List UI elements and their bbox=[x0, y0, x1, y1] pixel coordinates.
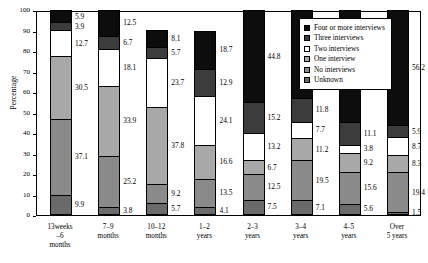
bar-segment[interactable]: 37.1 bbox=[50, 119, 72, 195]
bar-segment[interactable]: 13.5 bbox=[194, 179, 216, 207]
y-axis-tick-label: 40 bbox=[6, 130, 30, 137]
bar-1[interactable]: 9.937.130.512.73.95.9 bbox=[50, 10, 72, 215]
bar-segment-value: 5.9 bbox=[412, 128, 421, 136]
y-axis-tick-label: 30 bbox=[6, 151, 30, 158]
y-axis-tick-label: 90 bbox=[6, 28, 30, 35]
x-axis-tick-label: 13weeks–6months bbox=[33, 223, 87, 250]
bar-segment[interactable]: 5.9 bbox=[387, 125, 409, 137]
bar-segment[interactable]: 3.9 bbox=[50, 22, 72, 30]
bar-segment[interactable]: 16.6 bbox=[194, 145, 216, 179]
bar-segment-value: 11.8 bbox=[316, 106, 329, 114]
legend-item-label: Four or more interviews bbox=[314, 24, 385, 32]
bar-segment-value: 7.1 bbox=[316, 204, 325, 212]
bar-segment-value: 3.8 bbox=[123, 207, 132, 215]
x-axis-label-line: years bbox=[322, 232, 376, 241]
bar-segment[interactable]: 12.5 bbox=[243, 174, 265, 200]
bar-segment[interactable]: 12.9 bbox=[194, 69, 216, 95]
bar-segment[interactable]: 6.7 bbox=[243, 160, 265, 174]
bar-segment[interactable]: 11.1 bbox=[339, 122, 361, 145]
x-axis-tick-label: 3–4years bbox=[274, 223, 328, 241]
bar-segment[interactable]: 19.4 bbox=[387, 172, 409, 212]
x-axis-label-line: 5 years bbox=[370, 232, 424, 241]
y-axis-tick-label: 80 bbox=[6, 48, 30, 55]
bar-segment[interactable]: 30.5 bbox=[50, 56, 72, 119]
bar-segment-value: 37.1 bbox=[75, 153, 88, 161]
legend-item-0[interactable]: Four or more interviews bbox=[304, 23, 385, 33]
x-axis-label-line: 3–4 bbox=[274, 223, 328, 232]
bar-segment-value: 37.8 bbox=[171, 142, 184, 150]
legend-item-label: Unknown bbox=[314, 76, 343, 84]
bar-segment[interactable]: 5.7 bbox=[146, 203, 168, 215]
bar-segment[interactable]: 23.7 bbox=[146, 58, 168, 107]
bar-segment[interactable]: 9.9 bbox=[50, 195, 72, 215]
bar-segment[interactable]: 37.8 bbox=[146, 107, 168, 184]
bar-segment[interactable]: 3.8 bbox=[339, 145, 361, 153]
x-axis-label-line: Over bbox=[370, 223, 424, 232]
bar-segment-value: 1.5 bbox=[412, 209, 421, 217]
bar-segment[interactable]: 13.2 bbox=[243, 133, 265, 160]
bar-segment[interactable]: 1.5 bbox=[387, 212, 409, 215]
bar-segment[interactable]: 24.1 bbox=[194, 96, 216, 145]
bar-segment[interactable]: 18.7 bbox=[194, 31, 216, 69]
bar-segment[interactable]: 11.8 bbox=[291, 98, 313, 122]
y-axis-tick-label: 100 bbox=[6, 7, 30, 14]
bar-segment[interactable]: 4.1 bbox=[194, 207, 216, 215]
legend-item-2[interactable]: Two interviews bbox=[304, 44, 385, 54]
bar-segment-value: 33.9 bbox=[123, 117, 136, 125]
bar-segment[interactable]: 6.7 bbox=[98, 36, 120, 50]
bar-segment[interactable]: 12.7 bbox=[50, 30, 72, 56]
bar-segment[interactable]: 8.3 bbox=[387, 155, 409, 172]
x-axis-label-line: 10–12 bbox=[129, 223, 183, 232]
bar-segment-value: 30.5 bbox=[75, 84, 88, 92]
bar-segment[interactable]: 44.8 bbox=[243, 10, 265, 102]
bar-segment[interactable]: 18.1 bbox=[98, 49, 120, 86]
bar-3[interactable]: 5.79.237.823.75.78.1 bbox=[146, 10, 168, 215]
bar-segment[interactable]: 5.9 bbox=[50, 10, 72, 22]
x-axis-label-line: 2–3 bbox=[226, 223, 280, 232]
bar-segment-value: 6.7 bbox=[123, 39, 132, 47]
legend-item-label: Three interviews bbox=[314, 34, 363, 42]
y-axis-tick-label: 20 bbox=[6, 171, 30, 178]
bar-segment-value: 9.9 bbox=[75, 201, 84, 209]
y-axis-tick-label: 10 bbox=[6, 192, 30, 199]
bar-segment[interactable]: 15.2 bbox=[243, 102, 265, 133]
bar-segment-value: 18.7 bbox=[219, 46, 232, 54]
bar-segment[interactable]: 9.2 bbox=[339, 153, 361, 172]
y-axis-tick-label: 60 bbox=[6, 89, 30, 96]
legend-item-1[interactable]: Three interviews bbox=[304, 33, 385, 43]
bar-segment[interactable]: 15.6 bbox=[339, 172, 361, 204]
x-axis-tick-label: 4–5years bbox=[322, 223, 376, 241]
bar-segment-value: 23.7 bbox=[171, 79, 184, 87]
bar-segment[interactable]: 3.8 bbox=[98, 207, 120, 215]
bar-5[interactable]: 7.512.56.713.215.244.8 bbox=[243, 10, 265, 215]
bar-segment[interactable]: 12.5 bbox=[98, 10, 120, 36]
bar-segment[interactable]: 8.7 bbox=[387, 137, 409, 155]
bar-segment[interactable]: 33.9 bbox=[98, 86, 120, 155]
bar-segment-value: 5.9 bbox=[75, 13, 84, 21]
legend-item-3[interactable]: One interview bbox=[304, 54, 385, 64]
legend-swatch-icon bbox=[304, 46, 310, 52]
bar-segment-value: 19.5 bbox=[316, 177, 329, 185]
x-axis-tick-label: 7–9months bbox=[81, 223, 135, 241]
x-axis-tick-label: 1–2years bbox=[177, 223, 231, 241]
bar-segment[interactable]: 11.2 bbox=[291, 138, 313, 161]
bar-segment[interactable]: 25.2 bbox=[98, 156, 120, 208]
bar-segment[interactable]: 5.7 bbox=[146, 47, 168, 59]
bar-4[interactable]: 4.113.516.624.112.918.7 bbox=[194, 10, 216, 215]
bar-segment-value: 7.7 bbox=[316, 126, 325, 134]
bar-segment[interactable]: 7.7 bbox=[291, 122, 313, 138]
bar-2[interactable]: 3.825.233.918.16.712.5 bbox=[98, 10, 120, 215]
bar-segment[interactable]: 7.1 bbox=[291, 200, 313, 215]
legend-item-5[interactable]: Unknown bbox=[304, 75, 385, 85]
legend-item-4[interactable]: No interviews bbox=[304, 65, 385, 75]
bar-segment[interactable]: 7.5 bbox=[243, 200, 265, 215]
bar-segment[interactable]: 8.1 bbox=[146, 30, 168, 47]
y-axis-tick-label: 50 bbox=[6, 110, 30, 117]
legend-swatch-icon bbox=[304, 77, 310, 83]
bar-segment[interactable]: 19.5 bbox=[291, 160, 313, 200]
x-axis-label-line: years bbox=[274, 232, 328, 241]
bar-segment-value: 5.7 bbox=[171, 49, 180, 57]
bar-segment[interactable]: 9.2 bbox=[146, 184, 168, 203]
bar-segment[interactable]: 5.6 bbox=[339, 204, 361, 215]
y-axis-tick-mark bbox=[33, 216, 36, 217]
